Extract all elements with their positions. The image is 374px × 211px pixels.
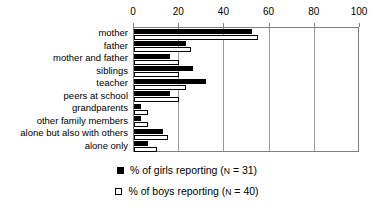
category-label: other family members (37, 116, 128, 126)
bar-boys (134, 85, 186, 90)
filled-square-icon (117, 167, 124, 174)
x-axis-tick-labels: 020406080100 (0, 6, 374, 20)
bar-boys (134, 97, 179, 102)
category-label: siblings (96, 66, 128, 76)
open-square-icon (115, 188, 122, 195)
bar-girls (134, 141, 148, 146)
bar-girls (134, 91, 170, 96)
x-tick-label: 60 (254, 6, 284, 18)
bar-boys (134, 60, 179, 65)
category-label: alone only (85, 141, 128, 151)
x-tick-label: 40 (208, 6, 238, 18)
axis-tick-mark (359, 23, 360, 27)
bar-girls (134, 79, 206, 84)
x-tick-label: 20 (163, 6, 193, 18)
category-label: peers at school (64, 91, 128, 101)
axis-tick-mark (269, 23, 270, 27)
axis-tick-mark (223, 23, 224, 27)
x-tick-label: 100 (344, 6, 374, 18)
category-axis-labels: motherfathermother and fathersiblingstea… (0, 27, 131, 152)
chart-legend: % of girls reporting (N = 31) % of boys … (0, 160, 374, 202)
axis-tick-mark (178, 23, 179, 27)
category-label: father (104, 41, 128, 51)
bar-girls (134, 116, 141, 121)
category-label: grandparents (72, 103, 128, 113)
plot-area (133, 27, 359, 152)
category-label: mother (98, 28, 128, 38)
bar-girls (134, 54, 170, 59)
bar-girls (134, 104, 141, 109)
bar-rows (134, 28, 358, 151)
legend-entry-girls: % of girls reporting (N = 31) (0, 160, 374, 181)
bar-chart: 020406080100 motherfathermother and fath… (0, 0, 374, 211)
bar-girls (134, 66, 193, 71)
category-label: mother and father (53, 53, 128, 63)
bar-boys (134, 72, 179, 77)
bar-girls (134, 41, 186, 46)
axis-tick-mark (133, 23, 134, 27)
legend-entry-boys: % of boys reporting (N = 40) (0, 181, 374, 202)
category-label: alone but also with others (20, 128, 128, 138)
axis-tick-mark (314, 23, 315, 27)
bar-boys (134, 35, 258, 40)
legend-label-boys: % of boys reporting (N = 40) (128, 185, 258, 198)
category-label: teacher (96, 78, 128, 88)
bar-boys (134, 47, 191, 52)
bar-girls (134, 129, 163, 134)
x-tick-label: 0 (118, 6, 148, 18)
bar-girls (134, 29, 252, 34)
x-tick-label: 80 (299, 6, 329, 18)
bar-boys (134, 147, 157, 152)
bar-boys (134, 135, 168, 140)
legend-label-girls: % of girls reporting (N = 31) (130, 164, 257, 177)
bar-boys (134, 110, 148, 115)
bar-boys (134, 122, 148, 127)
